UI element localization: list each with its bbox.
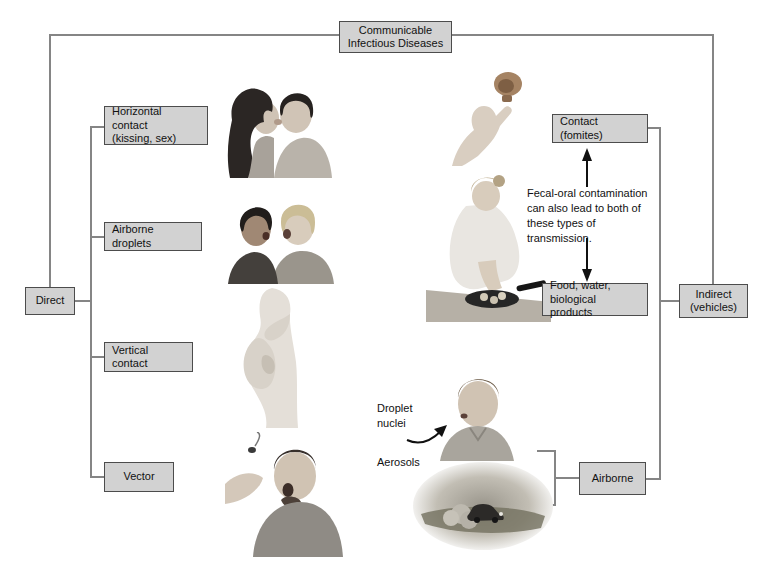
right-outer-vertical-line: [712, 34, 714, 285]
indirect-connector-line: [659, 300, 680, 302]
direct-box: Direct: [25, 287, 75, 315]
horizontal-contact-stub-line: [90, 126, 105, 128]
vertical-contact-stub-line: [90, 356, 105, 358]
vector-stub-line: [90, 476, 105, 478]
food-water-box: Food, water, biological products: [542, 283, 648, 316]
horizontal-contact-box: Horizontal contact (kissing, sex): [104, 106, 208, 145]
indirect-box: Indirect (vehicles): [679, 284, 748, 318]
airborne-connector-line: [645, 478, 661, 480]
talking-pair-illustration: [228, 192, 336, 284]
hand-doorknob-illustration: [448, 66, 538, 166]
fecal-oral-note: Fecal-oral contamination can also lead t…: [527, 186, 663, 246]
droplet-nuclei-label: Droplet nuclei: [377, 401, 437, 431]
kissing-couple-illustration: [222, 78, 335, 178]
indirect-tree-vertical-line: [659, 127, 661, 479]
transmission-diagram: Communicable Infectious Diseases Direct …: [0, 0, 770, 575]
vertical-contact-box: Vertical contact: [104, 342, 193, 372]
man-droplet-nuclei-illustration: [428, 366, 523, 461]
airborne-box: Airborne: [579, 462, 646, 495]
airborne-droplets-stub-line: [90, 236, 105, 238]
vector-box: Vector: [104, 462, 174, 492]
contact-fomites-box: Contact (fomites): [552, 114, 648, 143]
aerosols-label: Aerosols: [377, 455, 447, 470]
airborne-droplets-box: Airborne droplets: [104, 222, 202, 251]
airborne-bracket-top-tick: [537, 450, 556, 452]
direct-tree-vertical-line: [90, 126, 92, 478]
pregnant-woman-illustration: [238, 286, 323, 428]
left-outer-vertical-line: [49, 34, 51, 288]
bracket-to-airborne-line: [555, 477, 580, 479]
car-dust-aerosols-illustration: [413, 462, 553, 550]
title-box: Communicable Infectious Diseases: [339, 21, 452, 53]
man-swatting-insect-illustration: [225, 432, 345, 557]
